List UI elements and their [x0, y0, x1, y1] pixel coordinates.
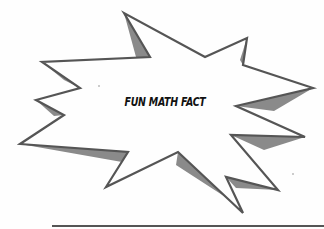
callout-label: FUN MATH FACT	[30, 95, 296, 109]
starburst-outline	[20, 13, 313, 213]
callout-label-text: FUN MATH FACT	[124, 95, 205, 109]
starburst-callout	[0, 0, 324, 229]
starburst-shadow	[20, 13, 313, 213]
writing-line	[52, 225, 324, 227]
paper-speck	[98, 85, 100, 87]
worksheet-canvas: FUN MATH FACT	[0, 0, 324, 229]
paper-speck	[292, 173, 294, 175]
